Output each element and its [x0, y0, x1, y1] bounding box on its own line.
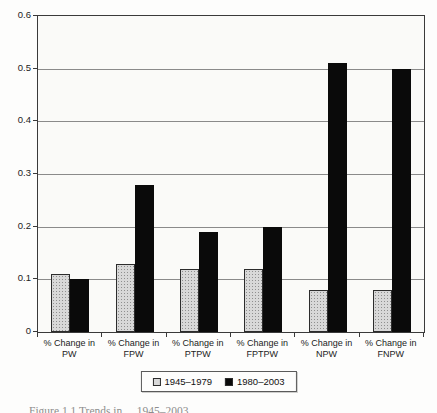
legend-label: 1980–2003: [237, 376, 285, 387]
x-axis-tick: [423, 333, 424, 337]
category-label-line1: % Change in: [162, 338, 234, 349]
y-axis-tick: [33, 15, 37, 16]
bar-1980-2003-fptpw: [263, 227, 282, 332]
bar-1945-1979-fnpw: [373, 290, 392, 332]
y-axis-tick: [33, 226, 37, 227]
bar-1980-2003-npw: [328, 63, 347, 332]
figure-page: 00.10.20.30.40.50.6% Change inPW% Change…: [0, 0, 437, 413]
y-axis-label: 0.6: [0, 10, 31, 20]
x-axis-tick: [359, 333, 360, 337]
y-axis-tick: [33, 331, 37, 332]
x-axis-tick: [37, 333, 38, 337]
bar-1980-2003-pw: [70, 279, 89, 332]
category-label-line2: NPW: [290, 349, 362, 360]
x-axis-category-label: % Change inNPW: [290, 338, 362, 360]
y-axis-label: 0.1: [0, 273, 31, 283]
y-axis-tick: [33, 173, 37, 174]
category-label-line2: PW: [33, 349, 105, 360]
y-axis-tick: [33, 68, 37, 69]
y-axis-label: 0: [0, 326, 31, 336]
category-label-line1: % Change in: [226, 338, 298, 349]
category-label-line1: % Change in: [97, 338, 169, 349]
gridline: [38, 69, 424, 70]
gridline: [38, 174, 424, 175]
category-label-line2: FNPW: [355, 349, 427, 360]
bar-1980-2003-fnpw: [392, 69, 411, 332]
category-label-line2: PTPW: [162, 349, 234, 360]
y-axis-label: 0.2: [0, 221, 31, 231]
x-axis-tick: [166, 333, 167, 337]
legend-label: 1945–1979: [164, 376, 212, 387]
category-label-line2: FPTPW: [226, 349, 298, 360]
x-axis-tick: [101, 333, 102, 337]
y-axis-label: 0.4: [0, 115, 31, 125]
y-axis-tick: [33, 278, 37, 279]
bar-1945-1979-npw: [309, 290, 328, 332]
bar-1945-1979-ptpw: [180, 269, 199, 332]
x-axis-tick: [294, 333, 295, 337]
bar-1980-2003-fpw: [135, 185, 154, 333]
category-label-line1: % Change in: [355, 338, 427, 349]
legend-item-1980-2003: 1980–2003: [225, 376, 285, 387]
bar-1980-2003-ptpw: [199, 232, 218, 332]
legend-swatch-icon: [225, 378, 233, 386]
figure-caption: Figure 1.1 Trends in ... 1945–2003: [29, 404, 419, 413]
y-axis-label: 0.5: [0, 63, 31, 73]
x-axis-category-label: % Change inFPW: [97, 338, 169, 360]
gridline: [38, 121, 424, 122]
bar-1945-1979-fpw: [116, 264, 135, 333]
plot-area: [37, 15, 425, 333]
category-label-line1: % Change in: [33, 338, 105, 349]
x-axis-category-label: % Change inFPTPW: [226, 338, 298, 360]
x-axis-category-label: % Change inFNPW: [355, 338, 427, 360]
bar-1945-1979-fptpw: [244, 269, 263, 332]
category-label-line2: FPW: [97, 349, 169, 360]
y-axis-tick: [33, 120, 37, 121]
category-label-line1: % Change in: [290, 338, 362, 349]
gridline: [38, 227, 424, 228]
x-axis-category-label: % Change inPTPW: [162, 338, 234, 360]
x-axis-category-label: % Change inPW: [33, 338, 105, 360]
bar-1945-1979-pw: [51, 274, 70, 332]
legend-item-1945-1979: 1945–1979: [152, 376, 212, 387]
gridline: [38, 279, 424, 280]
legend-swatch-icon: [152, 378, 160, 386]
x-axis-tick: [230, 333, 231, 337]
y-axis-label: 0.3: [0, 168, 31, 178]
chart-legend: 1945–19791980–2003: [140, 371, 296, 392]
